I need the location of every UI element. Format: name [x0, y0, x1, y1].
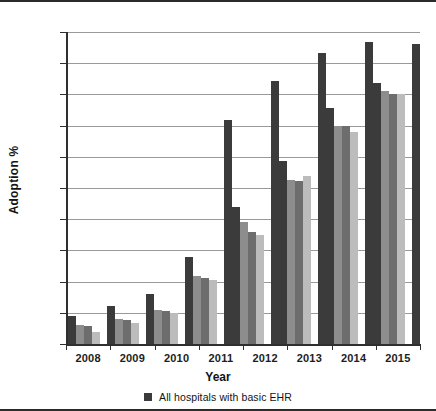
x-tick-mark-6: [332, 344, 333, 350]
chart-screenshot: Adoption % 0102030405060708090100 200820…: [0, 0, 436, 411]
x-axis-tick-marks: [66, 344, 420, 350]
legend-item-label: All hospitals with basic EHR: [159, 391, 292, 403]
bar-2010-series-4: [170, 313, 178, 344]
y-axis-label-wrapper: Adoption %: [2, 110, 26, 250]
bar-2009-series-1: [107, 306, 115, 344]
x-tick-label-2015: 2015: [376, 352, 420, 370]
bar-2013-series-2: [287, 180, 295, 344]
bar-2010-series-2: [154, 310, 162, 344]
bar-2012-series-3: [248, 232, 256, 344]
x-tick-label-2011: 2011: [199, 352, 243, 370]
x-tick-mark-1: [110, 344, 111, 350]
bar-2011-series-4: [209, 280, 217, 344]
bar-group-2014: [326, 32, 373, 344]
bar-group-2009: [107, 32, 146, 344]
x-tick-mark-3: [199, 344, 200, 350]
bar-group-2015: [373, 32, 420, 344]
bar-2008-series-1: [68, 316, 76, 344]
chart-legend: All hospitals with basic EHR: [0, 391, 436, 403]
x-tick-mark-8: [420, 344, 421, 350]
bar-2012-series-2: [240, 222, 248, 344]
bar-2011-series-1: [185, 257, 193, 344]
bar-2011-series-2: [193, 276, 201, 344]
x-tick-mark-4: [243, 344, 244, 350]
bar-2010-series-1: [146, 294, 154, 344]
x-tick-mark-2: [155, 344, 156, 350]
bar-2014-series-5: [365, 42, 373, 344]
bar-2015-series-4: [397, 94, 405, 344]
bar-2013-series-5: [318, 53, 326, 344]
bar-group-2010: [146, 32, 185, 344]
bar-2009-series-4: [131, 323, 139, 344]
x-tick-mark-7: [376, 344, 377, 350]
x-tick-label-2008: 2008: [66, 352, 110, 370]
bar-2012-series-4: [256, 235, 264, 344]
bar-2010-series-3: [162, 311, 170, 344]
bar-2009-series-3: [123, 320, 131, 344]
bar-2008-series-3: [84, 326, 92, 344]
bar-2012-series-1: [232, 207, 240, 344]
bar-group-2012: [232, 32, 279, 344]
bar-2013-series-1: [279, 161, 287, 344]
legend-square-marker: [144, 393, 152, 401]
bar-2014-series-1: [326, 108, 334, 344]
x-tick-label-2014: 2014: [332, 352, 376, 370]
bar-2009-series-2: [115, 319, 123, 344]
bar-2014-series-3: [342, 126, 350, 344]
x-axis-title: Year: [0, 370, 436, 384]
bar-2008-series-4: [92, 332, 100, 344]
bar-2011-series-5: [224, 120, 232, 344]
bar-2014-series-4: [350, 132, 358, 344]
bar-group-2013: [279, 32, 326, 344]
x-tick-label-2009: 2009: [110, 352, 154, 370]
bar-chart: Adoption % 0102030405060708090100 200820…: [0, 0, 436, 411]
x-tick-label-2010: 2010: [155, 352, 199, 370]
bar-group-2011: [185, 32, 232, 344]
bar-2015-series-2: [381, 91, 389, 344]
x-tick-mark-5: [287, 344, 288, 350]
x-axis-tick-labels: 20082009201020112012201320142015: [66, 352, 420, 370]
bar-2012-series-5: [271, 81, 279, 344]
x-tick-mark-0: [66, 344, 67, 350]
bar-2015-series-3: [389, 94, 397, 344]
bar-2013-series-3: [295, 181, 303, 344]
bar-2008-series-2: [76, 325, 84, 344]
bar-2015-series-5: [412, 44, 420, 344]
y-axis-label: Adoption %: [7, 146, 21, 215]
bar-2014-series-2: [334, 126, 342, 344]
bar-group-2008: [68, 32, 107, 344]
bar-2011-series-3: [201, 278, 209, 344]
x-tick-label-2012: 2012: [243, 352, 287, 370]
bar-groups: [68, 32, 420, 344]
bar-2015-series-1: [373, 83, 381, 344]
bar-2013-series-4: [303, 176, 311, 344]
x-tick-label-2013: 2013: [287, 352, 331, 370]
